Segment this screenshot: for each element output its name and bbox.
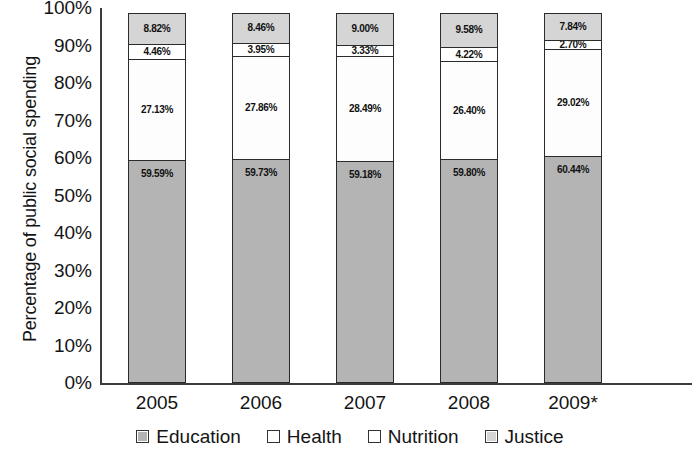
bar-segment-value-label: 9.00% bbox=[352, 24, 379, 34]
legend-swatch-icon bbox=[368, 430, 381, 443]
bar-segment-value-label: 27.13% bbox=[141, 105, 173, 115]
bar-column[interactable]: 8.82%4.46%27.13%59.59% bbox=[128, 13, 186, 383]
x-axis-tick-label: 2005 bbox=[97, 392, 217, 414]
y-axis-tick-label: 50% bbox=[6, 186, 92, 205]
bar-segment-nutrition[interactable]: 4.46% bbox=[128, 44, 186, 61]
legend-item-health[interactable]: Health bbox=[267, 427, 342, 446]
y-axis-line bbox=[100, 8, 102, 385]
legend-label: Health bbox=[287, 427, 342, 446]
bar-segment-education[interactable]: 59.59% bbox=[128, 160, 186, 383]
y-axis-tick-label: 80% bbox=[6, 73, 92, 92]
legend-swatch-icon bbox=[485, 430, 498, 443]
bar-segment-value-label: 9.58% bbox=[456, 25, 483, 35]
y-axis-tick-label: 100% bbox=[6, 0, 92, 17]
bar-segment-value-label: 59.18% bbox=[349, 170, 381, 180]
y-axis-tick-labels: 100%90%80%70%60%50%40%30%20%10%0% bbox=[0, 0, 100, 453]
bar-segment-education[interactable]: 59.73% bbox=[232, 159, 290, 383]
legend-swatch-icon bbox=[136, 430, 149, 443]
bar-segment-education[interactable]: 59.80% bbox=[440, 159, 498, 383]
bar-segment-value-label: 7.84% bbox=[560, 22, 587, 32]
x-axis-tick-label: 2008 bbox=[409, 392, 529, 414]
plot-area: 8.82%4.46%27.13%59.59%8.46%3.95%27.86%59… bbox=[100, 8, 692, 385]
legend-label: Education bbox=[156, 427, 241, 446]
bar-segment-justice[interactable]: 8.46% bbox=[232, 13, 290, 45]
bar-segment-value-label: 26.40% bbox=[453, 106, 485, 116]
bar-segment-value-label: 59.59% bbox=[141, 169, 173, 179]
x-axis-tick-label: 2009* bbox=[513, 392, 633, 414]
legend-swatch-icon bbox=[267, 430, 280, 443]
y-axis-tick-label: 0% bbox=[6, 373, 92, 392]
bar-segment-justice[interactable]: 9.58% bbox=[440, 13, 498, 49]
legend-label: Nutrition bbox=[388, 427, 459, 446]
y-axis-tick-label: 30% bbox=[6, 261, 92, 280]
legend-label: Justice bbox=[505, 427, 564, 446]
x-axis-tick-label: 2007 bbox=[305, 392, 425, 414]
bar-segment-value-label: 4.22% bbox=[456, 50, 483, 60]
bar-segment-value-label: 28.49% bbox=[349, 104, 381, 114]
x-axis-line bbox=[100, 383, 692, 385]
y-axis-tick-label: 60% bbox=[6, 148, 92, 167]
bar-column[interactable]: 8.46%3.95%27.86%59.73% bbox=[232, 13, 290, 383]
bar-segment-education[interactable]: 60.44% bbox=[544, 156, 602, 383]
bar-segment-education[interactable]: 59.18% bbox=[336, 161, 394, 383]
bar-column[interactable]: 7.84%2.70%29.02%60.44% bbox=[544, 13, 602, 383]
stacked-bar-chart: Percentage of public social spending 100… bbox=[0, 0, 700, 453]
bar-segment-health[interactable]: 27.86% bbox=[232, 56, 290, 160]
legend-item-education[interactable]: Education bbox=[136, 427, 241, 446]
bar-segment-health[interactable]: 29.02% bbox=[544, 49, 602, 158]
bar-segment-justice[interactable]: 8.82% bbox=[128, 13, 186, 46]
bar-segment-justice[interactable]: 9.00% bbox=[336, 13, 394, 47]
y-axis-tick-label: 70% bbox=[6, 111, 92, 130]
chart-legend: EducationHealthNutritionJustice bbox=[0, 427, 700, 446]
bar-segment-health[interactable]: 28.49% bbox=[336, 56, 394, 163]
y-axis-tick-label: 40% bbox=[6, 223, 92, 242]
bar-segment-value-label: 59.73% bbox=[245, 168, 277, 178]
bar-segment-health[interactable]: 27.13% bbox=[128, 59, 186, 161]
bar-segment-health[interactable]: 26.40% bbox=[440, 61, 498, 160]
bar-segment-value-label: 3.95% bbox=[248, 45, 275, 55]
y-axis-tick-label: 20% bbox=[6, 298, 92, 317]
bar-segment-value-label: 8.46% bbox=[248, 23, 275, 33]
bar-segment-justice[interactable]: 7.84% bbox=[544, 13, 602, 42]
y-axis-tick-label: 10% bbox=[6, 336, 92, 355]
bar-segment-value-label: 8.82% bbox=[144, 24, 171, 34]
y-axis-tick-label: 90% bbox=[6, 36, 92, 55]
x-axis-tick-label: 2006 bbox=[201, 392, 321, 414]
bar-segment-value-label: 27.86% bbox=[245, 103, 277, 113]
bar-column[interactable]: 9.00%3.33%28.49%59.18% bbox=[336, 13, 394, 383]
bar-segment-value-label: 29.02% bbox=[557, 98, 589, 108]
bar-segment-value-label: 59.80% bbox=[453, 168, 485, 178]
bar-segment-value-label: 4.46% bbox=[144, 47, 171, 57]
bar-segment-value-label: 60.44% bbox=[557, 165, 589, 175]
legend-item-nutrition[interactable]: Nutrition bbox=[368, 427, 459, 446]
bar-column[interactable]: 9.58%4.22%26.40%59.80% bbox=[440, 13, 498, 383]
bar-segment-value-label: 3.33% bbox=[352, 46, 379, 56]
legend-item-justice[interactable]: Justice bbox=[485, 427, 564, 446]
